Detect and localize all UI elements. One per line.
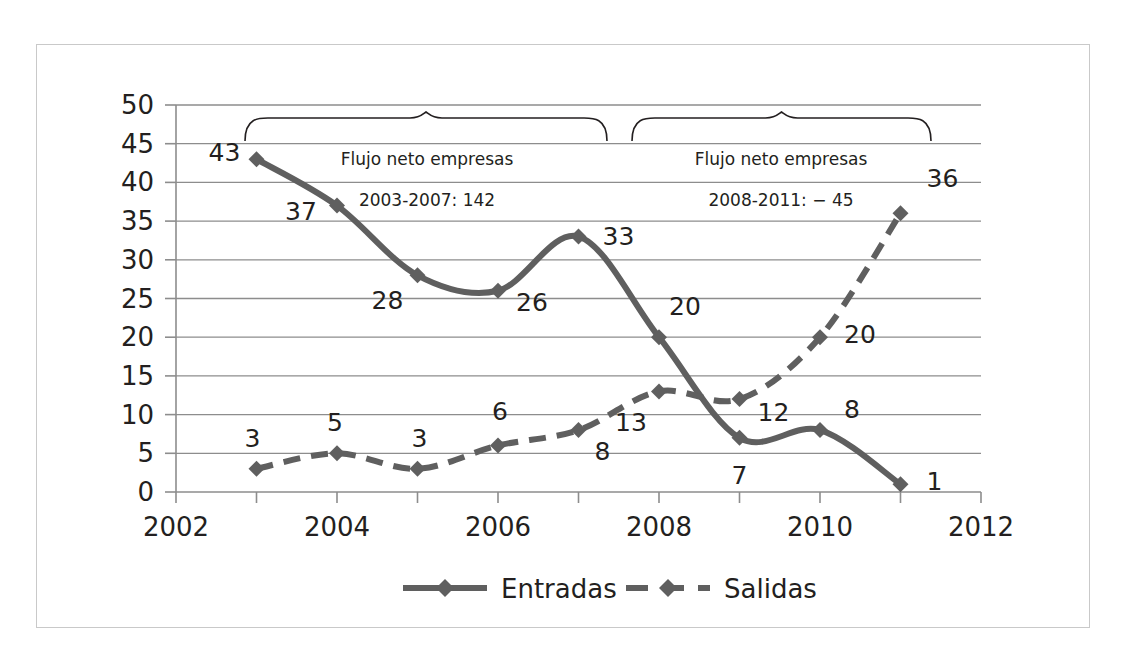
x-axis-tick-labels: 200220042006200820102012 bbox=[143, 512, 1014, 542]
y-tick-label-20: 20 bbox=[121, 322, 154, 352]
x-tick-label-2002: 2002 bbox=[143, 512, 209, 542]
annotation-braces-group bbox=[245, 112, 931, 141]
y-tick-label-45: 45 bbox=[121, 129, 154, 159]
y-tick-label-5: 5 bbox=[137, 438, 154, 468]
data-label-salidas-2010: 20 bbox=[844, 320, 876, 349]
y-tick-label-30: 30 bbox=[121, 245, 154, 275]
data-label-entradas-2006: 26 bbox=[516, 288, 548, 317]
y-tick-label-15: 15 bbox=[121, 361, 154, 391]
annotation-value-flujo-neto-2008-2011: 2008-2011: − 45 bbox=[708, 190, 853, 210]
y-tick-label-50: 50 bbox=[121, 90, 154, 120]
data-point-salidas-2007 bbox=[571, 422, 587, 438]
legend-marker-entradas bbox=[436, 579, 454, 597]
annotation-title-flujo-neto-2003-2007: Flujo neto empresas bbox=[341, 149, 514, 169]
data-label-salidas-2009: 12 bbox=[758, 398, 790, 427]
y-tick-label-35: 35 bbox=[121, 206, 154, 236]
data-point-salidas-2008 bbox=[651, 383, 667, 399]
data-point-entradas-2010 bbox=[812, 422, 828, 438]
data-label-entradas-2004: 37 bbox=[285, 197, 317, 226]
line-chart: 05101520253035404550 2002200420062008201… bbox=[0, 0, 1124, 670]
annotation-value-flujo-neto-2003-2007: 2003-2007: 142 bbox=[359, 190, 495, 210]
data-label-entradas-2007: 33 bbox=[603, 222, 635, 251]
chart-legend: EntradasSalidas bbox=[403, 574, 817, 604]
y-tick-label-10: 10 bbox=[121, 400, 154, 430]
data-label-salidas-2003: 3 bbox=[245, 424, 261, 453]
x-tick-label-2010: 2010 bbox=[787, 512, 853, 542]
data-label-entradas-2008: 20 bbox=[669, 292, 701, 321]
data-label-salidas-2005: 3 bbox=[412, 424, 428, 453]
x-tick-label-2008: 2008 bbox=[626, 512, 692, 542]
data-point-salidas-2005 bbox=[410, 461, 426, 477]
brace-flujo-neto-2008-2011 bbox=[632, 112, 931, 141]
legend-label-entradas[interactable]: Entradas bbox=[501, 574, 617, 604]
data-label-entradas-2010: 8 bbox=[844, 395, 860, 424]
data-label-salidas-2008: 13 bbox=[615, 408, 647, 437]
y-tick-label-40: 40 bbox=[121, 167, 154, 197]
data-label-salidas-2011: 36 bbox=[927, 164, 959, 193]
data-label-entradas-2009: 7 bbox=[732, 461, 748, 490]
y-axis-tick-labels: 05101520253035404550 bbox=[121, 90, 154, 507]
legend-marker-salidas bbox=[659, 579, 677, 597]
x-tick-label-2006: 2006 bbox=[465, 512, 531, 542]
data-label-salidas-2004: 5 bbox=[327, 408, 343, 437]
data-point-salidas-2006 bbox=[490, 438, 506, 454]
data-label-entradas-2003: 43 bbox=[209, 138, 241, 167]
annotations-group: Flujo neto empresas2003-2007: 142Flujo n… bbox=[341, 149, 868, 210]
x-tick-label-2012: 2012 bbox=[948, 512, 1014, 542]
data-label-salidas-2006: 6 bbox=[492, 397, 508, 426]
data-point-salidas-2004 bbox=[329, 445, 345, 461]
x-tick-label-2004: 2004 bbox=[304, 512, 370, 542]
annotation-title-flujo-neto-2008-2011: Flujo neto empresas bbox=[695, 149, 868, 169]
y-tick-label-25: 25 bbox=[121, 284, 154, 314]
data-label-salidas-2007: 8 bbox=[595, 437, 611, 466]
legend-label-salidas[interactable]: Salidas bbox=[724, 574, 817, 604]
data-point-salidas-2003 bbox=[249, 461, 265, 477]
chart-page: 05101520253035404550 2002200420062008201… bbox=[0, 0, 1124, 670]
brace-flujo-neto-2003-2007 bbox=[245, 112, 607, 141]
data-label-entradas-2011: 1 bbox=[927, 467, 943, 496]
y-tick-label-0: 0 bbox=[137, 477, 154, 507]
data-point-salidas-2009 bbox=[732, 391, 748, 407]
data-point-entradas-2006 bbox=[490, 283, 506, 299]
data-label-entradas-2005: 28 bbox=[372, 286, 404, 315]
